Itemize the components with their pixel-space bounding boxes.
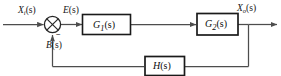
error-signal-arg: (s) bbox=[69, 5, 79, 15]
feedback-signal-arg: (s) bbox=[52, 40, 62, 50]
output-signal-arg: (s) bbox=[246, 3, 256, 13]
g1-label-arg: (s) bbox=[104, 19, 115, 30]
output-signal-label: Xo(s) bbox=[237, 4, 256, 14]
g1-block-label: G1(s) bbox=[93, 20, 115, 33]
h-label-arg: (s) bbox=[160, 60, 171, 71]
feedback-negative-sign: − bbox=[56, 31, 61, 39]
output-signal-subscript: o bbox=[243, 7, 246, 14]
input-signal-label: Xi(s) bbox=[18, 6, 36, 16]
output-signal-base: X bbox=[237, 3, 243, 13]
input-signal-base: X bbox=[18, 5, 24, 15]
input-signal-arg: (s) bbox=[26, 5, 36, 15]
g2-block-label: G2(s) bbox=[205, 19, 227, 32]
block-diagram: Xi(s) E(s) Xo(s) B(s) − G1(s) G2(s) H(s) bbox=[0, 0, 281, 76]
h-block-label: H(s) bbox=[153, 61, 171, 71]
g2-label-arg: (s) bbox=[216, 18, 227, 29]
error-signal-label: E(s) bbox=[63, 6, 79, 16]
input-signal-subscript: i bbox=[24, 9, 26, 16]
feedback-signal-label: B(s) bbox=[46, 41, 62, 51]
